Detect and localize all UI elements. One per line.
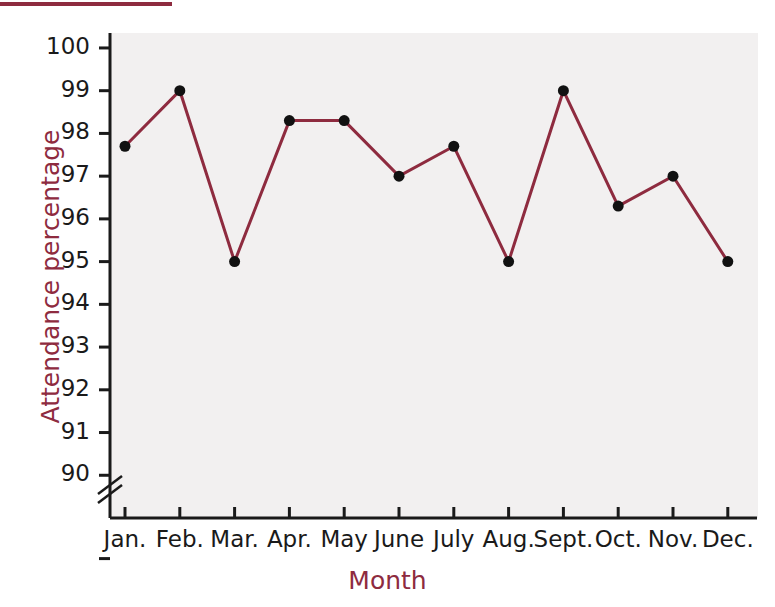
data-point — [613, 201, 624, 212]
data-point — [174, 85, 185, 96]
y-tick-label: 100 — [30, 33, 90, 59]
y-axis-title: Attendance percentage — [36, 77, 65, 477]
data-point — [558, 85, 569, 96]
data-point — [339, 115, 350, 126]
data-point — [722, 256, 733, 267]
plot-background — [110, 33, 758, 518]
data-point — [284, 115, 295, 126]
data-point — [394, 171, 405, 182]
x-axis-title: Month — [0, 566, 775, 595]
x-tick-label: Dec. — [688, 526, 768, 552]
attendance-line-chart: 90919293949596979899100 Jan.Feb.Mar.Apr.… — [0, 0, 775, 607]
data-point — [448, 141, 459, 152]
data-point — [668, 171, 679, 182]
y-axis-ticks — [99, 48, 110, 559]
data-point — [503, 256, 514, 267]
data-point — [120, 141, 131, 152]
data-point — [229, 256, 240, 267]
chart-plot-area — [0, 0, 775, 607]
